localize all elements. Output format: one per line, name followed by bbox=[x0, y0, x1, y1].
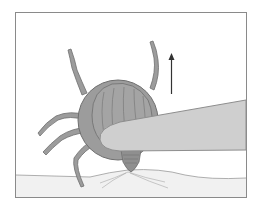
illustration-frame bbox=[0, 0, 259, 223]
